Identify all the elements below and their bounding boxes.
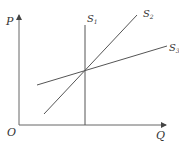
- curve-s2: [44, 15, 137, 114]
- s3-label: S3: [169, 42, 179, 54]
- x-axis-label: Q: [156, 129, 165, 142]
- s1-label: S1: [87, 13, 98, 25]
- y-axis-label: P: [5, 15, 14, 28]
- s2-label: S2: [143, 8, 154, 20]
- supply-diagram: P Q O S1 S2 S3: [0, 0, 179, 142]
- origin-label: O: [7, 126, 16, 139]
